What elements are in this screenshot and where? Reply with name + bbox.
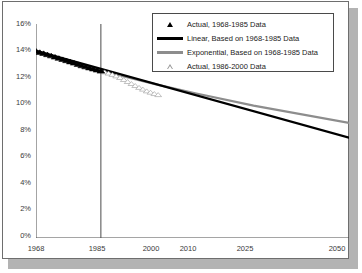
x-tick-label-2000: 2000 <box>136 245 166 253</box>
legend-item-actual-1968-1985: Actual, 1968-1985 Data <box>153 17 333 31</box>
hollow-triangle-icon <box>153 64 187 69</box>
chart-panel: 16% 14% 12% 10% 8% 6% 4% 2% 0% 1968 1985… <box>2 1 349 259</box>
y-tick-label-4: 4% <box>3 179 31 187</box>
gray-line-icon <box>153 51 187 54</box>
legend-item-linear: Linear, Based on 1968-1985 Data <box>153 31 333 45</box>
legend-label: Actual, 1968-1985 Data <box>187 20 266 29</box>
legend-label: Exponential, Based on 1968-1985 Data <box>187 48 318 57</box>
x-tick-label-1968: 1968 <box>21 245 51 253</box>
legend-label: Actual, 1986-2000 Data <box>187 62 266 71</box>
x-tick-label-2010: 2010 <box>173 245 203 253</box>
legend: Actual, 1968-1985 Data Linear, Based on … <box>152 13 334 72</box>
y-tick-label-6: 6% <box>3 152 31 160</box>
legend-item-exponential: Exponential, Based on 1968-1985 Data <box>153 45 333 59</box>
y-tick-label-2: 2% <box>3 205 31 213</box>
chart-screenshot: 16% 14% 12% 10% 8% 6% 4% 2% 0% 1968 1985… <box>0 0 362 273</box>
y-tick-label-16: 16% <box>3 20 31 28</box>
x-tick-label-2050: 2050 <box>322 245 352 253</box>
y-tick-label-8: 8% <box>3 126 31 134</box>
x-tick-label-1985: 1985 <box>82 245 112 253</box>
actual-1968-1985-markers <box>36 48 105 73</box>
y-tick-label-0: 0% <box>3 232 31 240</box>
y-tick-label-10: 10% <box>3 99 31 107</box>
y-tick-label-14: 14% <box>3 46 31 54</box>
x-tick-label-2025: 2025 <box>230 245 260 253</box>
y-tick-label-12: 12% <box>3 73 31 81</box>
black-line-icon <box>153 37 187 40</box>
legend-label: Linear, Based on 1968-1985 Data <box>187 34 299 43</box>
filled-triangle-icon <box>153 22 187 27</box>
legend-item-actual-1986-2000: Actual, 1986-2000 Data <box>153 59 333 73</box>
